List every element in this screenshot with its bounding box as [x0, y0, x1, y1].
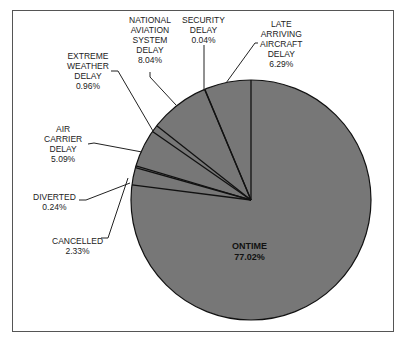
leader-line	[88, 143, 142, 152]
leader-line	[101, 178, 128, 238]
label-extreme-weather-delay: EXTREME WEATHER DELAY 0.96%	[67, 51, 109, 91]
label-air-carrier-delay: AIR CARRIER DELAY 5.09%	[44, 124, 82, 164]
leader-line	[111, 71, 153, 131]
label-national-aviation-system-delay: NATIONAL AVIATION SYSTEM DELAY 8.04%	[129, 15, 171, 65]
label-diverted: DIVERTED 0.24%	[33, 192, 76, 212]
leader-line	[79, 183, 130, 200]
leader-line	[226, 43, 258, 83]
leader-line	[150, 72, 176, 105]
pie-chart	[0, 0, 405, 349]
label-late-arriving-aircraft-delay: LATE ARRIVING AIRCRAFT DELAY 6.29%	[260, 19, 303, 69]
label-ontime: ONTIME 77.02%	[232, 241, 267, 263]
label-cancelled: CANCELLED 2.33%	[52, 236, 103, 256]
label-security-delay: SECURITY DELAY 0.04%	[182, 15, 225, 45]
